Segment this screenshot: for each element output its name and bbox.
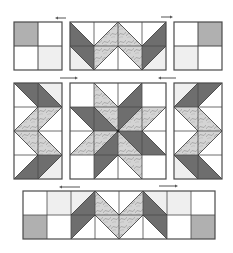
- arrow-right-icon: [161, 16, 173, 19]
- chevron-border-block-right: [174, 83, 222, 179]
- arrow-left-icon: [55, 17, 66, 20]
- arrow-right-icon: [60, 77, 78, 80]
- chevron-border-block-top: [70, 22, 166, 70]
- four-patch-block-top-right: [174, 22, 222, 70]
- chevron-border-block-bottom: [23, 191, 215, 239]
- arrow-left-icon: [158, 77, 176, 80]
- chevron-border-block-left: [14, 83, 62, 179]
- four-patch-block-top-left: [14, 22, 62, 70]
- quilt-assembly-diagram: [0, 0, 233, 253]
- arrow-right-icon: [159, 185, 178, 188]
- lemoyne-star-center-block: [70, 83, 166, 179]
- arrow-left-icon: [59, 186, 80, 189]
